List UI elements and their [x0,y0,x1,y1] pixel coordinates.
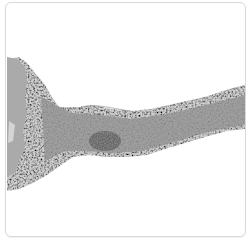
dense-cluster [89,131,121,151]
histology-micrograph [6,3,245,236]
micrograph-frame [5,2,246,237]
